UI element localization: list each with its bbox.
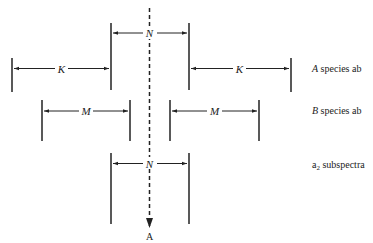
coupling-diagram: A N K K A species ab M M (0, 0, 373, 243)
row-label-b-species: B species ab (312, 105, 361, 116)
row-label-a-species: A species ab (311, 63, 361, 74)
symmetry-axis: A (146, 8, 154, 242)
row-label-text: subspectra (320, 159, 365, 170)
row-label-text: species ab (318, 63, 361, 74)
row-label-text: species ab (318, 105, 361, 116)
spacing-label-m-right: M (209, 105, 220, 117)
spacing-label-k-right: K (235, 63, 244, 75)
axis-label: A (146, 231, 154, 242)
spacing-label-n: N (145, 158, 154, 170)
spacing-label-m-left: M (80, 105, 91, 117)
spacing-label-n: N (145, 27, 154, 39)
row-b-species: M M B species ab (42, 100, 361, 141)
row-a-species: K K A species ab (12, 58, 361, 92)
spacing-label-k-left: K (57, 63, 66, 75)
axis-arrow-icon (146, 218, 153, 228)
diagram-canvas: A N K K A species ab M M (0, 0, 373, 243)
row-label-a2-subspectra: a2 subspectra (312, 159, 365, 172)
